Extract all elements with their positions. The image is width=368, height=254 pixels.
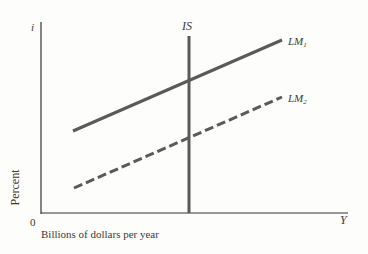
x-axis-symbol: Y (340, 213, 347, 228)
is-label: IS (182, 19, 192, 34)
lm1-label: LM1 (288, 35, 307, 49)
x-axis-label: Billions of dollars per year (41, 228, 159, 240)
origin-label: 0 (30, 216, 36, 228)
is-lm-diagram (0, 0, 368, 254)
lm2-label: LM2 (288, 92, 307, 106)
lm2-subscript: 2 (303, 98, 307, 106)
lm1-curve (73, 40, 282, 131)
y-axis-label: Percent (8, 170, 23, 206)
y-axis-symbol: i (31, 21, 34, 33)
lm1-label-text: LM (288, 35, 303, 47)
lm2-label-text: LM (288, 92, 303, 104)
lm2-curve (74, 97, 282, 188)
lm1-subscript: 1 (303, 41, 307, 49)
